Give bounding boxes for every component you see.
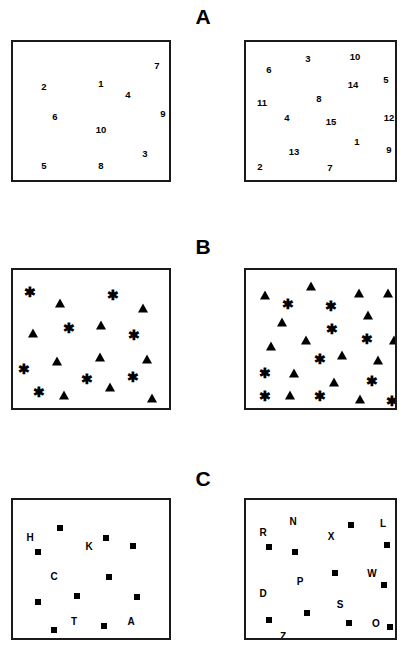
stimulus-number: 4 [125, 90, 130, 100]
star-icon: ✱ [259, 389, 271, 403]
stimulus-letter: T [71, 617, 77, 627]
stimulus-letter: P [297, 577, 304, 587]
stimulus-number: 3 [142, 149, 147, 159]
stimulus-number: 9 [386, 145, 391, 155]
triangle-icon [337, 351, 347, 360]
stimulus-number: 7 [327, 163, 332, 173]
stimulus-letter: L [380, 519, 386, 529]
square-marker [304, 610, 310, 616]
stimulus-letter: N [289, 517, 296, 527]
star-icon: ✱ [386, 394, 397, 408]
stimulus-number: 2 [41, 82, 46, 92]
triangle-icon [96, 321, 106, 330]
star-icon: ✱ [314, 389, 326, 403]
square-marker [387, 624, 393, 630]
triangle-icon [59, 391, 69, 400]
star-icon: ✱ [282, 297, 294, 311]
square-marker [51, 627, 57, 633]
stimulus-letter: C [50, 572, 57, 582]
triangle-icon [289, 369, 299, 378]
triangle-icon [95, 353, 105, 362]
triangle-icon [28, 329, 38, 338]
triangle-icon [105, 383, 115, 392]
triangle-icon [142, 355, 152, 364]
triangle-icon [138, 304, 148, 313]
star-icon: ✱ [366, 374, 378, 388]
stimulus-number: 5 [41, 161, 46, 171]
panel-c-right-box: NLRXWPDSOZ [244, 498, 397, 640]
stimulus-number: 15 [326, 117, 337, 127]
stimulus-letter: Z [280, 632, 286, 640]
panel-b-left-box: ✱✱✱✱✱✱✱✱ [11, 268, 171, 410]
stimulus-letter: X [328, 532, 335, 542]
square-marker [101, 623, 107, 629]
triangle-icon [52, 357, 62, 366]
stimulus-number: 10 [96, 125, 107, 135]
triangle-icon [147, 394, 157, 403]
stimulus-number: 12 [384, 113, 395, 123]
square-marker [106, 574, 112, 580]
stimulus-number: 6 [266, 65, 271, 75]
triangle-icon [266, 342, 276, 351]
triangle-icon [277, 318, 287, 327]
square-marker [292, 549, 298, 555]
stimulus-number: 8 [316, 94, 321, 104]
stimulus-letter: R [259, 528, 266, 538]
triangle-icon [389, 336, 397, 345]
square-marker [35, 549, 41, 555]
triangle-icon [260, 291, 270, 300]
stimulus-number: 6 [52, 112, 57, 122]
square-marker [266, 617, 272, 623]
triangle-icon [373, 356, 383, 365]
stimulus-number: 14 [348, 80, 359, 90]
panel-a-left-box: 72146910358 [11, 40, 171, 182]
panel-c-left-box: HKCTA [11, 498, 171, 640]
stimulus-letter: D [259, 589, 266, 599]
square-marker [346, 620, 352, 626]
square-marker [103, 535, 109, 541]
triangle-icon [285, 391, 295, 400]
panel-a-right-box: 310651481141512113927 [244, 40, 397, 182]
triangle-icon [355, 395, 365, 404]
triangle-icon [306, 282, 316, 291]
square-marker [348, 522, 354, 528]
stimulus-number: 8 [98, 161, 103, 171]
stimulus-number: 4 [284, 113, 289, 123]
square-marker [130, 543, 136, 549]
stimulus-number: 11 [257, 98, 267, 108]
panel-label-c: C [183, 468, 223, 489]
square-marker [266, 544, 272, 550]
star-icon: ✱ [361, 332, 373, 346]
star-icon: ✱ [81, 372, 93, 386]
panel-b-right-box: ✱✱✱✱✱✱✱✱✱✱ [244, 268, 397, 410]
square-marker [381, 582, 387, 588]
stimulus-number: 1 [354, 137, 359, 147]
star-icon: ✱ [24, 285, 36, 299]
square-marker [35, 599, 41, 605]
square-marker [134, 594, 140, 600]
stimulus-number: 13 [289, 147, 300, 157]
stimulus-letter: S [337, 600, 344, 610]
triangle-icon [55, 299, 65, 308]
stimulus-letter: H [26, 533, 33, 543]
square-marker [384, 542, 390, 548]
stimulus-number: 7 [154, 61, 159, 71]
square-marker [57, 525, 63, 531]
panel-label-a: A [183, 6, 223, 27]
star-icon: ✱ [33, 385, 45, 399]
stimulus-letter: W [367, 569, 376, 579]
figure-canvas: A72146910358310651481141512113927B✱✱✱✱✱✱… [0, 0, 419, 649]
triangle-icon [354, 289, 364, 298]
panel-label-b: B [183, 236, 223, 257]
triangle-icon [301, 336, 311, 345]
star-icon: ✱ [259, 366, 271, 380]
square-marker [332, 570, 338, 576]
stimulus-number: 5 [383, 75, 388, 85]
triangle-icon [363, 311, 373, 320]
star-icon: ✱ [63, 321, 75, 335]
triangle-icon [329, 378, 339, 387]
stimulus-number: 9 [160, 109, 165, 119]
stimulus-letter: O [372, 619, 380, 629]
star-icon: ✱ [107, 288, 119, 302]
star-icon: ✱ [18, 362, 30, 376]
